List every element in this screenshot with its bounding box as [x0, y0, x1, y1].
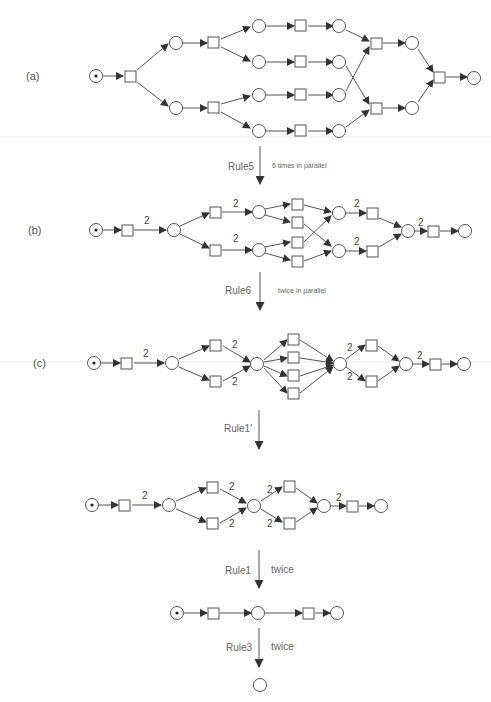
panel-d: 2 2 2 2 2 2: [86, 481, 388, 529]
petri-net-reduction-figure: (a): [0, 0, 491, 702]
rule-note: twice in parallel: [278, 287, 326, 295]
panel-label-c: (c): [33, 357, 46, 369]
svg-text:2: 2: [347, 371, 353, 382]
panel-label-a: (a): [26, 70, 39, 82]
svg-text:2: 2: [229, 481, 235, 492]
panel-f: [254, 679, 267, 692]
svg-text:2: 2: [233, 198, 239, 209]
rule-label: Rule3: [226, 642, 253, 653]
rule-step-2: Rule6 twice in parallel: [225, 272, 326, 310]
transition: [125, 71, 136, 82]
svg-text:2: 2: [267, 484, 273, 495]
svg-text:2: 2: [354, 236, 360, 247]
place-final: [254, 679, 267, 692]
panel-a: (a): [26, 20, 481, 138]
svg-text:2: 2: [142, 490, 148, 501]
svg-text:2: 2: [417, 350, 423, 361]
rule-label: Rule6: [225, 285, 252, 296]
rule-note: 6 times in parallel: [272, 162, 327, 170]
rule-label: Rule5: [228, 161, 255, 172]
svg-text:2: 2: [336, 492, 342, 503]
svg-text:2: 2: [267, 518, 273, 529]
token-dot: [94, 74, 97, 77]
svg-text:2: 2: [232, 376, 238, 387]
panel-b: (b) 2 2 2 2 2 2: [28, 198, 472, 267]
panel-label-b: (b): [28, 224, 41, 236]
rule-step-5: Rule3 twice: [226, 628, 294, 667]
rule-step-4: Rule1 twice: [225, 550, 294, 588]
rule-step-1: Rule5 6 times in parallel: [228, 146, 327, 184]
svg-text:2: 2: [354, 198, 360, 209]
svg-text:2: 2: [347, 342, 353, 353]
rule-note: twice: [271, 641, 294, 652]
panel-e: [171, 607, 344, 620]
rule-label: Rule1': [224, 423, 252, 434]
svg-text:2: 2: [144, 215, 150, 226]
panel-c: (c) 2 2 2 2 2 2: [33, 334, 471, 399]
svg-text:2: 2: [232, 339, 238, 350]
svg-text:2: 2: [233, 233, 239, 244]
svg-text:2: 2: [143, 348, 149, 359]
svg-text:2: 2: [229, 518, 235, 529]
rule-label: Rule1: [225, 565, 252, 576]
place-end: [468, 72, 481, 85]
rule-step-3: Rule1': [224, 410, 259, 449]
svg-text:2: 2: [418, 217, 424, 228]
rule-note: twice: [271, 564, 294, 575]
